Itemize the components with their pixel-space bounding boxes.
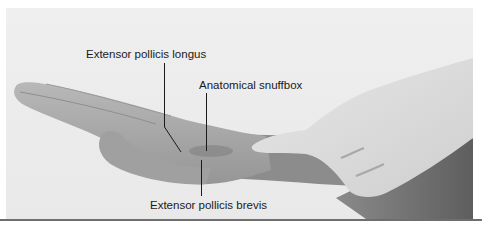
leader-line-epl-diagonal bbox=[0, 0, 482, 227]
leader-line-snuffbox bbox=[206, 93, 207, 151]
anatomy-figure: Extensor pollicis longus Anatomical snuf… bbox=[0, 0, 482, 227]
bottom-rule bbox=[0, 219, 482, 221]
label-extensor-pollicis-brevis: Extensor pollicis brevis bbox=[150, 200, 267, 212]
label-anatomical-snuffbox: Anatomical snuffbox bbox=[199, 80, 302, 92]
leader-line-epb bbox=[201, 160, 202, 196]
